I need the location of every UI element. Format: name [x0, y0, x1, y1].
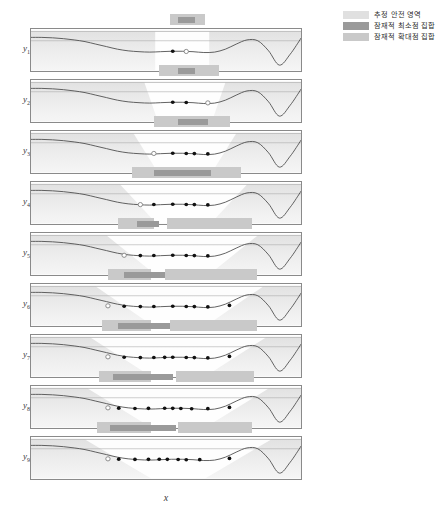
observation-point [184, 356, 188, 360]
observation-point [163, 406, 167, 410]
potential-minimizer-bar [118, 323, 170, 329]
potential-minimizer-bar [124, 272, 165, 278]
acquisition-strip-5 [30, 217, 302, 231]
x-axis-label: x [30, 492, 302, 503]
acquisition-strip-2 [30, 64, 302, 78]
legend-item-safe-region: 추정 안전 영역 [343, 10, 435, 19]
y-axis-label-4: y4 [14, 196, 30, 208]
incumbent-point [106, 304, 110, 308]
potential-expander-bar [165, 269, 257, 280]
acquisition-strip-6 [30, 268, 302, 282]
potential-expander-bar [178, 422, 251, 433]
legend-swatch-expander-set [343, 33, 369, 41]
observation-point [138, 305, 142, 309]
observation-point [192, 305, 196, 309]
observation-point [206, 152, 210, 156]
observation-point [192, 356, 196, 360]
observation-point [171, 151, 175, 155]
acquisition-strip-4 [30, 166, 302, 180]
observation-point [133, 458, 137, 462]
incumbent-point [184, 49, 188, 53]
observation-point [228, 304, 232, 308]
y-axis-label-8: y8 [14, 400, 30, 412]
incumbent-point [122, 253, 126, 257]
observation-point [122, 355, 126, 359]
acquisition-strip-3 [30, 115, 302, 129]
panel-plot-9 [31, 437, 301, 479]
y-axis-label-6: y6 [14, 298, 30, 310]
acquisition-strip-7 [30, 319, 302, 333]
incumbent-point [152, 151, 156, 155]
potential-minimizer-bar [154, 170, 211, 176]
observation-point [171, 49, 175, 53]
observation-point [171, 100, 175, 104]
observation-point [184, 305, 188, 309]
incumbent-point [106, 457, 110, 461]
observation-point [228, 457, 232, 461]
acquisition-strip-1 [30, 13, 302, 27]
observation-point [171, 304, 175, 308]
observation-point [163, 356, 167, 360]
observation-point [206, 356, 210, 360]
potential-minimizer-bar [178, 119, 208, 125]
observation-point [165, 458, 169, 462]
y-axis-label-3: y3 [14, 145, 30, 157]
potential-minimizer-bar [178, 68, 194, 74]
legend-label-minimizer-set: 잠재적 최소점 집합 [374, 21, 435, 30]
observation-point [206, 407, 210, 411]
observation-point [122, 304, 126, 308]
legend-item-minimizer-set: 잠재적 최소점 집합 [343, 21, 435, 30]
potential-expander-bar [176, 371, 255, 382]
y-axis-label-7: y7 [14, 349, 30, 361]
figure-canvas: 추정 안전 영역 잠재적 최소점 집합 잠재적 확대점 집합 y1y2y3y4y… [0, 0, 437, 516]
observation-point [147, 407, 151, 411]
observation-point [190, 407, 194, 411]
observation-point [228, 355, 232, 359]
legend-swatch-safe-region [343, 11, 369, 19]
legend-label-safe-region: 추정 안전 영역 [374, 10, 421, 19]
incumbent-point [138, 202, 142, 206]
potential-expander-bar [170, 320, 257, 331]
legend-swatch-minimizer-set [343, 22, 369, 30]
observation-point [138, 356, 142, 360]
potential-expander-bar [167, 218, 251, 229]
legend-item-expander-set: 잠재적 확대점 집합 [343, 32, 435, 41]
observation-point [171, 355, 175, 359]
observation-point [184, 101, 188, 105]
potential-minimizer-bar [178, 17, 194, 23]
legend-label-expander-set: 잠재적 확대점 집합 [374, 32, 435, 41]
observation-point [206, 305, 210, 309]
y-axis-label-1: y1 [14, 43, 30, 55]
observation-point [198, 458, 202, 462]
observation-point [117, 406, 121, 410]
observation-point [152, 305, 156, 309]
y-axis-label-9: y9 [14, 451, 30, 463]
observation-point [184, 458, 188, 462]
incumbent-point [106, 355, 110, 359]
observation-point [133, 407, 137, 411]
observation-point [117, 457, 121, 461]
y-axis-label-5: y5 [14, 247, 30, 259]
y-axis-label-2: y2 [14, 94, 30, 106]
potential-minimizer-bar [110, 425, 175, 431]
legend: 추정 안전 영역 잠재적 최소점 집합 잠재적 확대점 집합 [343, 10, 435, 41]
observation-point [184, 254, 188, 258]
observation-point [179, 407, 183, 411]
observation-point [206, 203, 210, 207]
plot-panel-9 [30, 436, 302, 480]
observation-point [152, 203, 156, 207]
observation-point [176, 458, 180, 462]
observation-point [171, 202, 175, 206]
observation-point [192, 203, 196, 207]
acquisition-strip-9 [30, 421, 302, 435]
observation-point [184, 152, 188, 156]
observation-point [157, 457, 161, 461]
observation-point [228, 406, 232, 410]
observation-point [171, 407, 175, 411]
observation-point [152, 356, 156, 360]
observation-point [206, 254, 210, 258]
observation-point [171, 253, 175, 257]
acquisition-strip-8 [30, 370, 302, 384]
observation-point [184, 203, 188, 207]
observation-point [192, 152, 196, 156]
